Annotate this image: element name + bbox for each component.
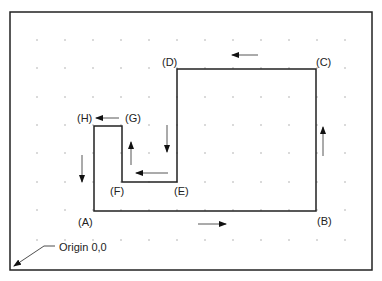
grid-dot bbox=[64, 39, 65, 40]
point-label: (H) bbox=[77, 112, 92, 124]
point-label: (B) bbox=[317, 215, 332, 227]
grid-dot bbox=[36, 152, 37, 153]
grid-dot bbox=[120, 67, 121, 68]
grid-dot bbox=[232, 152, 233, 153]
grid-dot bbox=[204, 124, 205, 125]
direction-arrows bbox=[82, 55, 323, 224]
grid-dot bbox=[92, 67, 93, 68]
grid-dot bbox=[288, 124, 289, 125]
grid-dot bbox=[344, 67, 345, 68]
origin-label: Origin 0,0 bbox=[59, 241, 107, 253]
grid-dot bbox=[120, 39, 121, 40]
grid-dot bbox=[36, 39, 37, 40]
grid-dot bbox=[344, 239, 345, 240]
point-label: (A) bbox=[78, 216, 93, 228]
grid-dot bbox=[148, 39, 149, 40]
point-labels: (A)(B)(C)(D)(E)(F)(G)(H) bbox=[77, 56, 332, 228]
grid-dot bbox=[176, 239, 177, 240]
grid-dot bbox=[120, 239, 121, 240]
grid-dot bbox=[232, 124, 233, 125]
grid-dot bbox=[288, 239, 289, 240]
grid-dot bbox=[92, 96, 93, 97]
grid-dot bbox=[204, 152, 205, 153]
point-label: (G) bbox=[125, 112, 141, 124]
grid-dot bbox=[92, 39, 93, 40]
grid-dot bbox=[64, 181, 65, 182]
grid-dot bbox=[36, 239, 37, 240]
grid-dot bbox=[36, 124, 37, 125]
grid-dot bbox=[288, 152, 289, 153]
grid-dot bbox=[288, 181, 289, 182]
grid-dot bbox=[64, 67, 65, 68]
grid-dot bbox=[148, 152, 149, 153]
grid-dot bbox=[232, 39, 233, 40]
grid-dot bbox=[344, 209, 345, 210]
grid-dot bbox=[204, 239, 205, 240]
coordinate-path-diagram: (A)(B)(C)(D)(E)(F)(G)(H) Origin 0,0 bbox=[0, 0, 382, 281]
origin-leader-arrow-icon bbox=[14, 246, 55, 266]
grid-dot bbox=[344, 96, 345, 97]
origin-annotation: Origin 0,0 bbox=[14, 241, 107, 266]
grid-dot bbox=[344, 124, 345, 125]
grid-dot bbox=[64, 96, 65, 97]
grid-dot bbox=[232, 239, 233, 240]
grid-dot bbox=[64, 124, 65, 125]
point-label: (D) bbox=[162, 56, 177, 68]
grid-dot bbox=[204, 39, 205, 40]
grid-dot bbox=[148, 96, 149, 97]
grid-dot bbox=[260, 239, 261, 240]
grid-dot bbox=[64, 209, 65, 210]
grid-dot bbox=[36, 96, 37, 97]
grid-dot bbox=[288, 39, 289, 40]
grid-dot bbox=[64, 152, 65, 153]
drawing-frame bbox=[10, 12, 372, 270]
grid-dot bbox=[120, 96, 121, 97]
point-label: (F) bbox=[110, 185, 124, 197]
grid-dot bbox=[204, 181, 205, 182]
tool-path-outline bbox=[94, 69, 316, 211]
grid-dot bbox=[344, 39, 345, 40]
grid-dot bbox=[148, 124, 149, 125]
grid-dot bbox=[232, 181, 233, 182]
grid-dot bbox=[176, 39, 177, 40]
grid-dot bbox=[148, 67, 149, 68]
grid-dot bbox=[344, 152, 345, 153]
grid-dot bbox=[204, 96, 205, 97]
grid-dot bbox=[344, 181, 345, 182]
grid-dot bbox=[260, 181, 261, 182]
grid-dot bbox=[316, 239, 317, 240]
point-label: (C) bbox=[316, 56, 331, 68]
grid-dot bbox=[36, 67, 37, 68]
point-label: (E) bbox=[174, 185, 189, 197]
grid-dot bbox=[288, 96, 289, 97]
grid-dot bbox=[260, 96, 261, 97]
grid-dot bbox=[260, 124, 261, 125]
grid-dot bbox=[260, 152, 261, 153]
grid-dot bbox=[316, 39, 317, 40]
grid-dot bbox=[36, 181, 37, 182]
grid-dot bbox=[260, 39, 261, 40]
grid-dot bbox=[148, 239, 149, 240]
grid-dot bbox=[232, 96, 233, 97]
grid-dot bbox=[36, 209, 37, 210]
